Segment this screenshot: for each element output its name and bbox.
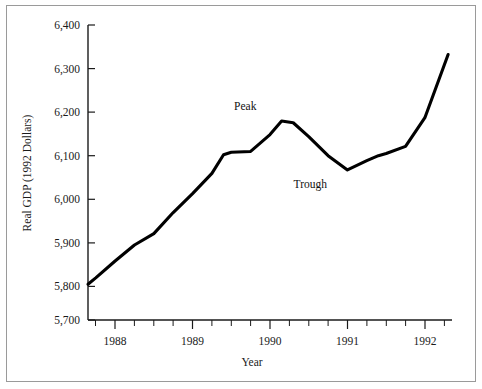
y-tick-label-6100: 6,100 [54, 150, 80, 163]
y-tick-label-6000: 6,000 [54, 193, 80, 206]
trough-annotation-label: Trough [294, 178, 328, 191]
y-tick-label-5700: 5,700 [54, 314, 80, 327]
gdp-line-series [88, 55, 448, 285]
y-axis-title: Real GDP (1992 Dollars) [21, 114, 34, 231]
y-tick-label-6200: 6,200 [54, 106, 80, 119]
x-tick-label-1988: 1988 [104, 335, 127, 347]
y-tick-label-5900: 5,900 [54, 237, 80, 250]
x-tick-label-1990: 1990 [259, 335, 282, 347]
x-tick-label-1991: 1991 [336, 335, 359, 347]
y-tick-label-6300: 6,300 [54, 63, 80, 76]
peak-annotation-label: Peak [234, 100, 257, 112]
chart-figure: 6,400 6,300 6,200 6,100 6,000 5,900 5,80… [0, 0, 482, 389]
y-axis-ticks [88, 25, 95, 320]
x-axis-title: Year [241, 356, 262, 368]
chart-plot-area: 6,400 6,300 6,200 6,100 6,000 5,900 5,80… [0, 0, 482, 389]
x-tick-label-1989: 1989 [181, 335, 204, 347]
y-tick-label-6400: 6,400 [54, 19, 80, 32]
x-axis-major-ticks [115, 320, 425, 329]
y-tick-label-5800: 5,800 [54, 280, 80, 293]
x-tick-label-1992: 1992 [414, 335, 437, 347]
